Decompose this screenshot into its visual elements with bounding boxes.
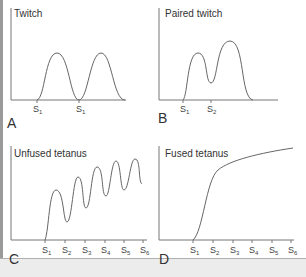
svg-text:S1: S1 — [33, 104, 43, 115]
panel-b-letter: B — [158, 110, 167, 126]
svg-text:S1: S1 — [76, 104, 86, 115]
svg-text:S5: S5 — [121, 245, 131, 256]
panel-a-curve — [37, 53, 125, 100]
panel-b-curve — [183, 41, 253, 100]
panel-b-axes — [159, 8, 278, 100]
panel-d-letter: D — [159, 251, 169, 267]
svg-text:S4: S4 — [249, 245, 259, 256]
panel-c-axes — [11, 146, 147, 240]
panel-b-title: Paired twitch — [165, 8, 222, 19]
panel-c-letter: C — [9, 251, 19, 267]
panel-c-title: Unfused tetanus — [14, 148, 87, 159]
svg-text:S2: S2 — [210, 245, 220, 256]
panel-d-curve — [193, 148, 293, 240]
svg-text:S2: S2 — [62, 245, 72, 256]
panel-a-letter: A — [7, 115, 17, 131]
svg-text:S1: S1 — [190, 245, 200, 256]
svg-text:S5: S5 — [269, 245, 279, 256]
svg-text:S3: S3 — [82, 245, 92, 256]
svg-text:S6: S6 — [288, 245, 298, 256]
panel-d-title: Fused tetanus — [165, 148, 228, 159]
svg-text:S1: S1 — [180, 104, 190, 115]
panel-a-axes — [11, 8, 126, 100]
svg-text:S4: S4 — [101, 245, 111, 256]
svg-text:S2: S2 — [207, 104, 217, 115]
panel-a-title: Twitch — [14, 8, 42, 19]
panel-c-curve — [45, 159, 142, 240]
svg-text:S3: S3 — [230, 245, 240, 256]
panel-d-axes — [159, 146, 294, 240]
svg-text:S1: S1 — [42, 245, 52, 256]
svg-text:S6: S6 — [140, 245, 150, 256]
